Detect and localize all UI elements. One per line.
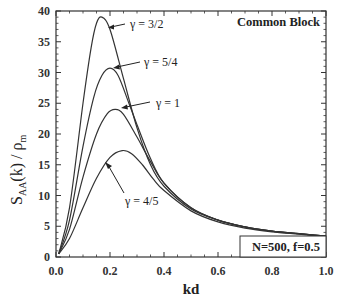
y-tick-label: 5 <box>44 219 50 233</box>
y-tick-label: 35 <box>38 35 50 49</box>
chart-svg: 0510152025303540 0.00.20.40.60.81.0 Comm… <box>0 0 337 299</box>
svg-text:SAA(k) / ρm: SAA(k) / ρm <box>8 135 28 205</box>
x-axis-title: kd <box>183 281 200 297</box>
x-tick-label: 0.2 <box>103 264 118 278</box>
svg-text:N=500, f=0.5: N=500, f=0.5 <box>252 240 320 254</box>
y-tick-label: 20 <box>38 127 50 141</box>
curve-series-1 <box>59 68 326 254</box>
svg-text:γ = 1: γ = 1 <box>155 96 180 110</box>
curve-series-2 <box>59 109 326 254</box>
svg-text:γ = 5/4: γ = 5/4 <box>143 55 177 69</box>
annotation-g45: γ = 4/5 <box>105 162 158 208</box>
y-tick-label: 15 <box>38 158 50 172</box>
chart-title: Common Block <box>237 15 320 29</box>
svg-text:γ = 3/2: γ = 3/2 <box>129 17 163 31</box>
y-axis-title: SAA(k) / ρm <box>8 135 28 205</box>
x-tick-label: 0.8 <box>265 264 280 278</box>
svg-text:γ = 4/5: γ = 4/5 <box>124 194 158 208</box>
data-curves <box>59 17 326 254</box>
x-tick-label: 0.0 <box>49 264 64 278</box>
annotation-g54: γ = 5/4 <box>113 55 177 70</box>
y-axis-ticks: 0510152025303540 <box>38 4 326 264</box>
x-tick-label: 1.0 <box>319 264 334 278</box>
y-tick-label: 30 <box>38 66 50 80</box>
curve-series-0 <box>59 17 326 254</box>
info-box: N=500, f=0.5 <box>240 236 326 257</box>
annotation-g32: γ = 3/2 <box>108 17 163 31</box>
y-tick-label: 10 <box>38 189 50 203</box>
x-tick-label: 0.4 <box>157 264 172 278</box>
y-tick-label: 0 <box>44 250 50 264</box>
y-tick-label: 25 <box>38 96 50 110</box>
x-tick-label: 0.6 <box>211 264 226 278</box>
y-tick-label: 40 <box>38 4 50 18</box>
